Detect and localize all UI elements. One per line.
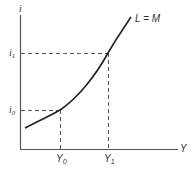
y0-label: Y0 bbox=[56, 153, 67, 165]
lm-curve bbox=[25, 17, 131, 128]
i0-label: i0 bbox=[9, 104, 16, 117]
lm-curve-diagram: i Y L = M i1 i0 Y0 Y1 bbox=[0, 0, 193, 170]
x-axis-label: Y bbox=[180, 143, 188, 154]
i1-label: i1 bbox=[9, 47, 15, 60]
curve-label: L = M bbox=[135, 13, 161, 24]
y1-label: Y1 bbox=[104, 153, 115, 165]
y-axis-label: i bbox=[19, 3, 22, 14]
